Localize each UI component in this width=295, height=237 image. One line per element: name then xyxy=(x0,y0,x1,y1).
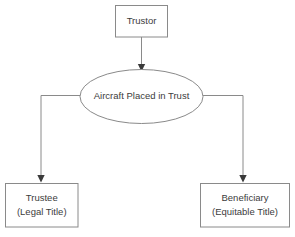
node-trustor-label: Trustor xyxy=(127,15,157,26)
node-trustee-label-primary: Trustee xyxy=(26,192,58,203)
flowchart-canvas: Trustor Aircraft Placed in Trust Trustee… xyxy=(0,0,295,237)
arrowhead-trust-to-beneficiary xyxy=(239,175,246,183)
node-trustee-label-secondary: (Legal Title) xyxy=(17,206,67,217)
node-beneficiary-label-primary: Beneficiary xyxy=(222,192,269,203)
node-beneficiary[interactable]: Beneficiary (Equitable Title) xyxy=(201,184,290,228)
connector-trust-to-trustee xyxy=(41,96,80,180)
node-trust[interactable]: Aircraft Placed in Trust xyxy=(80,70,203,124)
connector-trust-to-beneficiary xyxy=(203,96,243,180)
node-trust-label: Aircraft Placed in Trust xyxy=(94,90,190,101)
node-beneficiary-label-secondary: (Equitable Title) xyxy=(212,206,278,217)
node-trustee[interactable]: Trustee (Legal Title) xyxy=(6,184,79,228)
node-trustor[interactable]: Trustor xyxy=(116,6,168,38)
diagram-container: Trustor Aircraft Placed in Trust Trustee… xyxy=(0,0,295,237)
arrowhead-trust-to-trustee xyxy=(37,175,44,183)
